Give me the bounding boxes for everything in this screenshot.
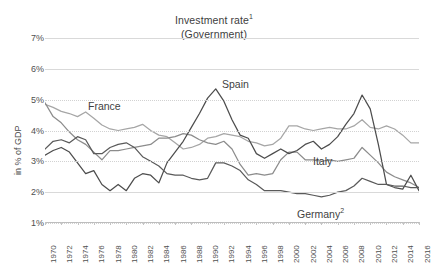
x-axis-tick-label: 1994 (244, 245, 253, 263)
chart-title: Investment rate1 (Government) (0, 10, 428, 41)
x-axis-tick-label: 2016 (423, 245, 432, 263)
x-axis-tick-mark (224, 222, 225, 225)
x-axis-tick-mark (143, 222, 144, 225)
x-axis-tick-label: 1970 (49, 245, 58, 263)
series-label-text: Spain (222, 78, 249, 90)
y-axis-tick-label: 5% (14, 95, 44, 105)
y-axis-tick-label: 7% (14, 33, 44, 43)
x-axis-tick-mark (240, 222, 241, 225)
series-line-germany (45, 137, 419, 197)
x-axis-tick-mark (370, 222, 371, 225)
x-axis-tick-label: 1974 (81, 245, 90, 263)
x-axis-tick-mark (305, 222, 306, 225)
gridline (45, 38, 419, 40)
series-label-text: France (88, 100, 121, 112)
x-axis-tick-mark (256, 222, 257, 225)
y-axis-labels: 1%2%3%4%5%6%7% (0, 0, 44, 267)
x-axis-tick-mark (273, 222, 274, 225)
x-axis-tick-label: 1972 (65, 245, 74, 263)
chart-title-main: Investment rate1 (0, 10, 428, 27)
chart-title-text: Investment rate (175, 14, 249, 26)
series-label-france: France (88, 100, 121, 112)
x-axis-tick-label: 2014 (406, 245, 415, 263)
series-label-text: Italy (313, 155, 332, 167)
series-line-italy (45, 103, 419, 188)
gridline (45, 69, 419, 71)
x-axis-tick-mark (175, 222, 176, 225)
x-axis-tick-mark (338, 222, 339, 225)
series-label-superscript: 2 (340, 207, 344, 214)
y-axis-tick-label: 6% (14, 64, 44, 74)
y-axis-tick-label: 2% (14, 187, 44, 197)
series-label-italy: Italy (313, 155, 332, 167)
x-axis-tick-mark (159, 222, 160, 225)
x-axis-tick-label: 1996 (260, 245, 269, 263)
x-axis-tick-label: 1976 (97, 245, 106, 263)
x-axis-tick-label: 2010 (374, 245, 383, 263)
series-label-germany: Germany2 (297, 207, 344, 220)
x-axis-tick-mark (289, 222, 290, 225)
x-axis-tick-label: 1990 (211, 245, 220, 263)
x-axis-tick-mark (126, 222, 127, 225)
x-axis-tick-mark (321, 222, 322, 225)
gridline (45, 131, 419, 133)
x-axis-tick-mark (419, 222, 420, 225)
x-axis-tick-label: 2012 (390, 245, 399, 263)
x-axis-tick-label: 1978 (114, 245, 123, 263)
x-axis-tick-label: 1986 (179, 245, 188, 263)
x-axis-tick-mark (78, 222, 79, 225)
series-label-text: Germany (297, 208, 340, 220)
x-axis-tick-label: 2006 (341, 245, 350, 263)
y-axis-tick-label: 4% (14, 126, 44, 136)
gridline (45, 161, 419, 163)
x-axis-tick-mark (45, 222, 46, 225)
x-axis-tick-mark (354, 222, 355, 225)
x-axis-tick-label: 1998 (276, 245, 285, 263)
x-axis-tick-mark (61, 222, 62, 225)
x-axis-tick-label: 2004 (325, 245, 334, 263)
x-axis-tick-label: 1988 (195, 245, 204, 263)
chart-title-superscript: 1 (249, 13, 253, 20)
x-axis-tick-mark (94, 222, 95, 225)
y-axis-tick-label: 1% (14, 218, 44, 228)
gridline (45, 192, 419, 194)
x-axis-tick-label: 1980 (130, 245, 139, 263)
plot-area (45, 38, 419, 223)
x-axis-tick-mark (110, 222, 111, 225)
y-axis-tick-label: 3% (14, 156, 44, 166)
x-axis-tick-mark (403, 222, 404, 225)
x-axis-tick-label: 2002 (309, 245, 318, 263)
x-axis-tick-label: 1982 (146, 245, 155, 263)
x-axis-tick-label: 1992 (227, 245, 236, 263)
x-axis-tick-label: 2000 (292, 245, 301, 263)
x-axis-line (45, 222, 419, 223)
x-axis-tick-mark (191, 222, 192, 225)
x-axis-tick-mark (208, 222, 209, 225)
x-axis-tick-label: 1984 (162, 245, 171, 263)
x-axis-tick-mark (386, 222, 387, 225)
x-axis-labels: 1970197219741976197819801982198419861988… (45, 225, 419, 267)
series-label-spain: Spain (222, 78, 249, 90)
x-axis-tick-label: 2008 (357, 245, 366, 263)
